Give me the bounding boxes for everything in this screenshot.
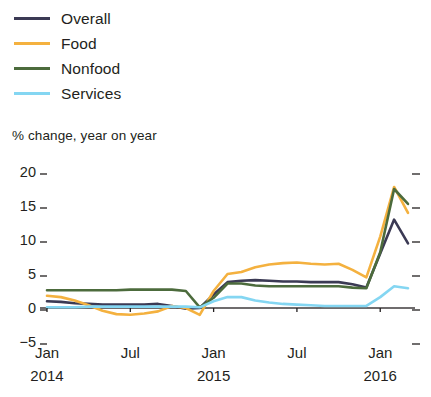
y-tick-label: 10 <box>20 232 36 248</box>
x-tick-label: Jul <box>287 344 306 361</box>
series-line-nonfood <box>47 189 408 307</box>
series-lines <box>47 187 408 315</box>
x-tick-label: Jul <box>121 344 140 361</box>
x-axis-ticks: Jan2014JulJan2015JulJan2016 <box>30 308 397 384</box>
x-tick-year-label: 2015 <box>197 367 230 384</box>
x-tick-year-label: 2014 <box>30 367 63 384</box>
series-line-food <box>47 187 408 315</box>
y-tick-label: 20 <box>20 164 36 180</box>
series-line-overall <box>47 220 408 309</box>
x-tick-label: Jan <box>368 344 392 361</box>
y-tick-label: −5 <box>19 334 36 350</box>
chart-figure: Overall Food Nonfood Services % change, … <box>0 0 431 397</box>
chart-svg: 20151050−5 Jan2014JulJan2015JulJan2016 <box>0 0 431 397</box>
chart-plot-area: 20151050−5 Jan2014JulJan2015JulJan2016 <box>0 0 431 397</box>
x-tick-label: Jan <box>202 344 226 361</box>
y-axis-ticks: 20151050−5 <box>19 164 47 350</box>
x-tick-label: Jan <box>35 344 59 361</box>
y-tick-label: 0 <box>28 300 36 316</box>
y-tick-label: 5 <box>28 266 36 282</box>
y-axis-ticks-right <box>412 174 420 344</box>
y-tick-label: 15 <box>20 198 36 214</box>
x-tick-year-label: 2016 <box>364 367 397 384</box>
